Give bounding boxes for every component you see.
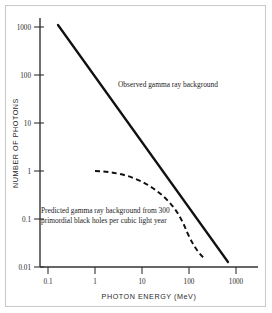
figure-container: 1000 100 10 1 0.1 0.01 0.1 1 10 — [0, 0, 272, 313]
chart-plot-area: 1000 100 10 1 0.1 0.01 0.1 1 10 — [0, 0, 272, 313]
y-tick-label-1: 1 — [27, 168, 31, 176]
y-axis-title: NUMBER OF PHOTONS — [11, 98, 20, 188]
x-tick-label-10: 10 — [138, 278, 146, 286]
predicted-curve-label-line2: primordial black holes per cubic light y… — [41, 216, 167, 225]
predicted-curve-label-line1: Predicted gamma ray background from 300 — [41, 206, 170, 215]
y-tick-label-0-1: 0.1 — [22, 216, 31, 224]
y-tick-label-10: 10 — [24, 120, 32, 128]
chart-svg: 1000 100 10 1 0.1 0.01 0.1 1 10 — [0, 0, 272, 313]
y-tick-label-1000: 1000 — [17, 24, 32, 32]
y-tick-label-100: 100 — [20, 72, 31, 80]
x-axis-title: PHOTON ENERGY (MeV) — [102, 292, 197, 301]
x-tick-label-1000: 1000 — [229, 278, 244, 286]
observed-curve-label: Observed gamma ray background — [118, 80, 218, 89]
x-tick-label-0-1: 0.1 — [44, 278, 53, 286]
x-tick-label-100: 100 — [184, 278, 195, 286]
series-observed-gamma-ray-background — [58, 25, 228, 262]
y-tick-label-0-01: 0.01 — [18, 264, 31, 272]
x-tick-label-1: 1 — [93, 278, 97, 286]
series-predicted-gamma-ray-background — [95, 171, 205, 259]
